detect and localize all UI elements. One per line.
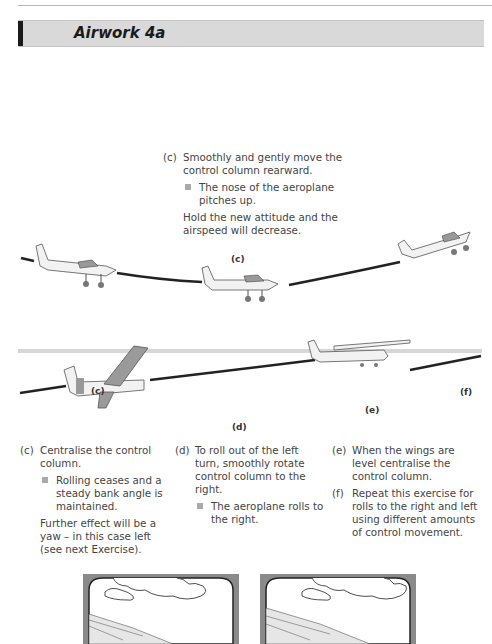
step-text: To roll out of the left turn, smoothly r… xyxy=(195,444,325,496)
figure-label-d: (d) xyxy=(232,422,247,432)
section-divider xyxy=(18,349,482,353)
lower-step-d: (d) To roll out of the left turn, smooth… xyxy=(175,444,325,526)
step-text: Smoothly and gently move the control col… xyxy=(183,151,353,177)
step-note: Further effect will be a yaw – in this c… xyxy=(20,517,168,556)
cockpit-view-left xyxy=(83,574,239,644)
cockpit-view-right xyxy=(260,574,416,644)
aeroplane-icon xyxy=(36,244,116,288)
lower-steps-e-f: (e) When the wings are level centralise … xyxy=(332,444,482,539)
step-label: (d) xyxy=(175,444,195,496)
figure-label-c: (c) xyxy=(91,386,105,396)
section-header: Airwork 4a xyxy=(18,20,484,47)
step-text: Repeat this exercise for rolls to the ri… xyxy=(352,487,482,539)
banked-aeroplane-icon xyxy=(64,346,148,408)
roll-flight-path-diagram xyxy=(0,360,492,450)
step-label: (c) xyxy=(20,444,40,470)
lower-step-c: (c) Centralise the control column. Rolli… xyxy=(20,444,168,556)
step-text: Centralise the control column. xyxy=(40,444,168,470)
step-bullet: The nose of the aeroplane pitches up. xyxy=(199,181,353,207)
pitch-flight-path-diagram xyxy=(0,230,492,330)
page-title: Airwork 4a xyxy=(74,24,165,42)
step-text: When the wings are level centralise the … xyxy=(352,444,482,483)
step-label: (f) xyxy=(332,487,352,539)
aeroplane-icon xyxy=(202,266,278,302)
top-rule xyxy=(18,5,492,6)
section-marker xyxy=(18,21,23,46)
figure-label-e: (e) xyxy=(365,405,379,415)
step-bullet: The aeroplane rolls to the right. xyxy=(211,500,325,526)
step-label: (e) xyxy=(332,444,352,483)
step-label: (c) xyxy=(163,151,183,177)
upper-step-c: (c) Smoothly and gently move the control… xyxy=(163,151,353,237)
figure-label-c: (c) xyxy=(231,254,245,264)
step-bullet: Rolling ceases and a steady bank angle i… xyxy=(56,474,168,513)
bullet-square-icon xyxy=(185,184,191,190)
level-aeroplane-icon xyxy=(308,340,410,367)
bullet-square-icon xyxy=(197,503,203,509)
aeroplane-icon xyxy=(398,232,470,258)
bullet-square-icon xyxy=(42,477,48,483)
figure-label-f: (f) xyxy=(460,387,472,397)
